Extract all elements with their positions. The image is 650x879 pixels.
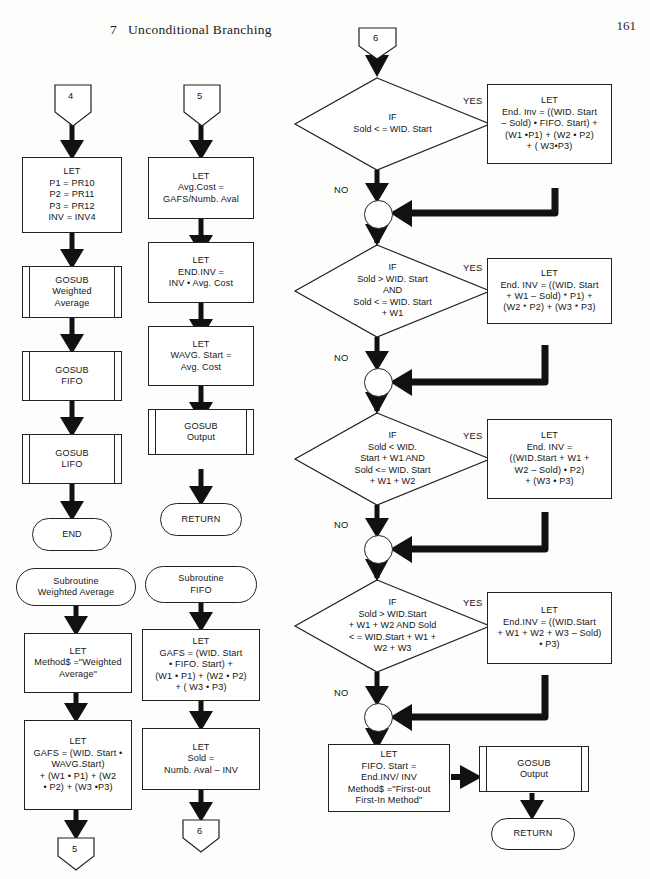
process-end-inv-case-4[interactable]: LET End.INV = ((WID.Start + W1 + W2 + W3… bbox=[487, 592, 612, 664]
process-end-inv[interactable]: LET END.INV = INV • Avg. Cost bbox=[148, 242, 254, 303]
decision-sold-lt-start-w1-and-le-w1-w2[interactable]: IF Sold < WID. Start + W1 AND Sold <= WI… bbox=[295, 413, 490, 505]
process-wavg-start[interactable]: LET WAVG. Start = Avg. Cost bbox=[148, 326, 254, 386]
process-fifo-start-method[interactable]: LET FIFO. Start = End.INV/ INV Method$ =… bbox=[328, 744, 450, 812]
offpage-connector-5-exit-label[interactable]: 5 bbox=[72, 843, 77, 854]
gosub-lifo[interactable]: GOSUB LIFO bbox=[22, 434, 122, 484]
no-label-1: NO bbox=[334, 184, 348, 195]
yes-label-1: YES bbox=[463, 95, 482, 106]
merge-point-4 bbox=[364, 703, 393, 732]
decision-sold-gt-w1-w2-and-le-w1-w2-w3[interactable]: IF Sold > WID.Start + W1 + W2 AND Sold <… bbox=[295, 580, 490, 672]
terminator-end[interactable]: END bbox=[32, 518, 112, 551]
process-gafs-weighted-average[interactable]: LET GAFS = (WID. Start • WAVG.Start) + (… bbox=[24, 720, 132, 810]
decision-4-text: IF Sold > WID.Start + W1 + W2 AND Sold <… bbox=[295, 580, 490, 672]
page-canvas: 7Unconditional Branching 161 bbox=[0, 0, 650, 879]
final-return-arrowhead bbox=[520, 800, 544, 820]
gosub-output-main[interactable]: GOSUB Output bbox=[479, 746, 589, 792]
process-avg-cost[interactable]: LET Avg.Cost = GAFS/Numb. Aval bbox=[148, 157, 254, 219]
terminator-return-main[interactable]: RETURN bbox=[491, 818, 575, 850]
no-label-2: NO bbox=[334, 352, 348, 363]
merge-point-1 bbox=[364, 200, 393, 229]
yes-label-4: YES bbox=[463, 597, 482, 608]
no-label-4: NO bbox=[334, 687, 348, 698]
terminator-subroutine-fifo[interactable]: Subroutine FIFO bbox=[145, 566, 257, 603]
process-method-weighted-average[interactable]: LET Method$ ="Weighted Average" bbox=[24, 633, 132, 693]
process-end-inv-case-2[interactable]: LET End. INV = ((WID. Start + W1 – Sold)… bbox=[487, 258, 612, 324]
decision-1-text: IF Sold < = WID. Start bbox=[295, 78, 490, 170]
terminator-subroutine-weighted-average[interactable]: Subroutine Weighted Average bbox=[16, 568, 136, 606]
gosub-weighted-average[interactable]: GOSUB Weighted Average bbox=[22, 266, 122, 318]
process-end-inv-case-1[interactable]: LET End. Inv = ((WID. Start – Sold) • FI… bbox=[487, 84, 612, 164]
terminator-return-col2[interactable]: RETURN bbox=[160, 503, 242, 536]
process-gafs-fifo[interactable]: LET GAFS = (WID. Start • FIFO. Start) + … bbox=[142, 629, 260, 701]
process-p1-p2-p3-inv[interactable]: LET P1 = PR10 P2 = PR11 P3 = PR12 INV = … bbox=[22, 157, 122, 233]
gosub-fifo[interactable]: GOSUB FIFO bbox=[22, 351, 122, 401]
process-sold-fifo[interactable]: LET Sold = Numb. Aval – INV bbox=[142, 728, 260, 790]
yes-label-2: YES bbox=[463, 262, 482, 273]
merge-point-3 bbox=[364, 535, 393, 564]
yes-branch-arrowheads bbox=[500, 112, 522, 638]
gosub-output-col2[interactable]: GOSUB Output bbox=[148, 409, 254, 455]
decision-3-text: IF Sold < WID. Start + W1 AND Sold <= WI… bbox=[295, 413, 490, 505]
merge-point-2 bbox=[364, 368, 393, 397]
process-end-inv-case-3[interactable]: LET End. INV = ((WID.Start + W1 + W2 – S… bbox=[487, 419, 612, 499]
offpage-connector-5-label[interactable]: 5 bbox=[197, 90, 202, 101]
offpage-connector-4-label[interactable]: 4 bbox=[68, 90, 73, 101]
offpage-connector-6-exit-label[interactable]: 6 bbox=[197, 825, 202, 836]
offpage-connector-6-entry-label[interactable]: 6 bbox=[373, 32, 378, 43]
yes-label-3: YES bbox=[463, 430, 482, 441]
decision-2-text: IF Sold > WID. Start AND Sold < = WID. S… bbox=[295, 245, 490, 337]
no-label-3: NO bbox=[334, 519, 348, 530]
decision-sold-le-wid-start[interactable]: IF Sold < = WID. Start bbox=[295, 78, 490, 170]
decision-sold-gt-wid-start-and-le-w1[interactable]: IF Sold > WID. Start AND Sold < = WID. S… bbox=[295, 245, 490, 337]
